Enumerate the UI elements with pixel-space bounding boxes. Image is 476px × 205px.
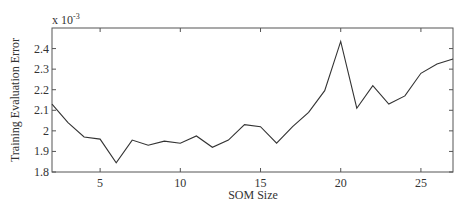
y-exponent-label: x 10-3 (52, 12, 80, 27)
y-tick-label: 2 (43, 124, 49, 138)
axes-frame (52, 28, 453, 172)
x-tick-label: 5 (97, 176, 103, 190)
y-tick-label: 1.8 (34, 165, 49, 179)
y-tick-label: 2.4 (34, 42, 49, 56)
y-tick-label: 1.9 (34, 144, 49, 158)
x-axis-label: SOM Size (228, 188, 278, 202)
y-tick-label: 2.1 (34, 103, 49, 117)
x-tick-label: 25 (415, 176, 427, 190)
x-tick-label: 20 (335, 176, 347, 190)
y-tick-label: 2.2 (34, 83, 49, 97)
y-tick-label: 2.3 (34, 62, 49, 76)
line-chart: 5101520251.81.922.12.22.32.4 SOM Size Tr… (0, 0, 476, 205)
plot-area: 5101520251.81.922.12.22.32.4 (34, 28, 453, 190)
y-axis-label: Training Evaluation Error (8, 38, 22, 162)
data-line (52, 41, 453, 162)
x-tick-label: 10 (174, 176, 186, 190)
